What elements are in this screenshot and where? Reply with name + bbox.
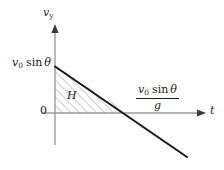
- fraction-numerator-theta: θ: [170, 83, 177, 96]
- fraction-numerator: v0sinθ: [136, 84, 179, 98]
- fraction-denominator: g: [136, 99, 179, 111]
- diagram-canvas: [0, 0, 224, 170]
- fraction-numerator-subscript: 0: [144, 88, 149, 97]
- origin-label: 0: [40, 105, 47, 116]
- y-axis-label-subscript: y: [49, 11, 53, 20]
- x-axis-label: t: [210, 105, 214, 116]
- y-intercept-theta: θ: [44, 56, 51, 69]
- x-intercept-fraction-label: v0sinθ g: [136, 84, 179, 111]
- y-intercept-label: v0sinθ: [12, 57, 51, 70]
- y-axis-label: vy: [43, 7, 53, 20]
- fraction-numerator-sin: sin: [152, 83, 168, 96]
- velocity-time-diagram: vy v0sinθ 0 H t v0sinθ g: [0, 0, 224, 170]
- y-axis-arrowhead: [51, 24, 58, 33]
- y-intercept-sin: sin: [26, 56, 42, 69]
- area-label-H: H: [67, 90, 77, 101]
- y-intercept-subscript: 0: [18, 61, 23, 70]
- x-axis-arrowhead: [197, 109, 206, 116]
